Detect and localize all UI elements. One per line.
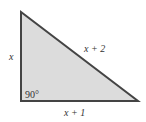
- triangle-diagram: x x + 2 90° x + 1: [0, 0, 146, 122]
- right-triangle: [21, 12, 138, 101]
- left-side-label: x: [8, 51, 14, 62]
- right-angle-label: 90°: [25, 89, 39, 100]
- bottom-side-label: x + 1: [63, 107, 85, 118]
- hypotenuse-label: x + 2: [83, 43, 105, 54]
